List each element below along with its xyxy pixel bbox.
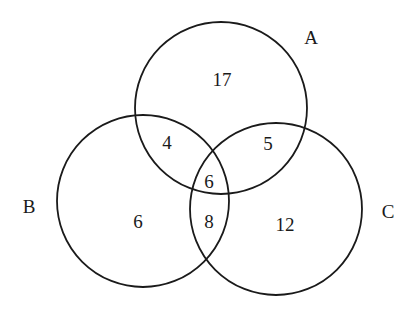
region-value-a-and-c-only: 5 (263, 133, 273, 154)
set-circle-c (190, 123, 362, 295)
set-circle-b (57, 115, 229, 287)
venn-diagram: ABC 174566812 (0, 0, 419, 317)
set-label-c: C (382, 201, 395, 222)
region-value-a-only: 17 (213, 69, 232, 90)
set-label-b: B (23, 196, 36, 217)
set-label-a: A (304, 27, 318, 48)
set-circle-a (135, 22, 307, 194)
region-value-c-only: 12 (276, 214, 295, 235)
region-value-a-and-b-and-c: 6 (204, 171, 214, 192)
region-value-a-and-b-only: 4 (162, 132, 172, 153)
region-value-b-only: 6 (133, 211, 143, 232)
region-value-b-and-c-only: 8 (204, 211, 214, 232)
